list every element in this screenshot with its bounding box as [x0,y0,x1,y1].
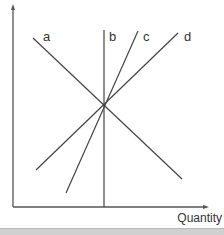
line-a [33,38,182,179]
label-a: a [43,30,50,43]
label-b: b [109,30,116,43]
label-d: d [184,30,191,43]
x-axis-arrow-icon [203,205,209,209]
line-d [36,33,178,170]
label-c: c [143,30,150,43]
bottom-bar [0,228,224,235]
x-axis-label: Quantity [177,212,222,224]
line-c [66,31,138,193]
y-axis-arrow-icon [11,4,15,10]
